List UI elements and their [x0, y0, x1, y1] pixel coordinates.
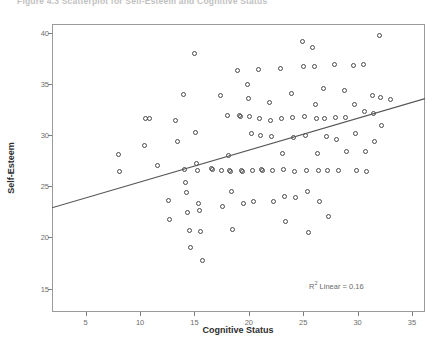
- scatter-point: [258, 133, 263, 138]
- scatter-point: [316, 168, 321, 173]
- x-tick-mark: [358, 312, 359, 316]
- scatter-point: [362, 109, 367, 114]
- scatter-point: [372, 139, 377, 144]
- x-tick-label: 30: [353, 318, 361, 327]
- scatter-point: [343, 115, 348, 120]
- scatter-point: [312, 64, 317, 69]
- scatter-point: [363, 149, 368, 154]
- x-tick-label: 5: [84, 318, 88, 327]
- scatter-point: [184, 190, 189, 195]
- scatter-point: [322, 116, 327, 121]
- scatter-point: [193, 130, 198, 135]
- plot-area: 152025303540 5101520253035: [52, 24, 425, 312]
- scatter-point: [321, 86, 326, 91]
- scatter-point: [379, 123, 384, 128]
- scatter-point: [181, 92, 186, 97]
- scatter-point: [305, 189, 310, 194]
- y-axis-title: Self-Esteem: [6, 142, 16, 194]
- scatter-point: [210, 167, 215, 172]
- scatter-point: [260, 168, 265, 173]
- scatter-point: [226, 153, 231, 158]
- scatter-point: [378, 95, 383, 100]
- scatter-point: [304, 168, 309, 173]
- r-squared-annotation: R2 Linear = 0.16: [309, 280, 364, 291]
- scatter-point: [314, 116, 319, 121]
- scatter-point: [303, 133, 308, 138]
- scatter-point: [290, 115, 295, 120]
- scatter-point: [315, 151, 320, 156]
- scatter-point: [200, 258, 205, 263]
- scatter-point: [245, 82, 250, 87]
- figure-caption: Figure 4.3 Scatterplot for Self-Esteem a…: [17, 0, 267, 6]
- scatter-point: [306, 230, 311, 235]
- scatter-point: [229, 189, 234, 194]
- scatter-point: [325, 168, 330, 173]
- scatter-point: [283, 219, 288, 224]
- scatter-point: [300, 39, 305, 44]
- scatter-point: [334, 137, 339, 142]
- x-tick-mark: [194, 312, 195, 316]
- scatter-point: [238, 114, 243, 119]
- scatter-point: [246, 96, 251, 101]
- x-tick-mark: [86, 312, 87, 316]
- scatter-point: [196, 201, 201, 206]
- scatter-point: [324, 134, 329, 139]
- x-tick-label: 15: [190, 318, 198, 327]
- scatter-point: [268, 118, 273, 123]
- scatter-point: [278, 66, 283, 71]
- scatter-point: [361, 62, 366, 67]
- scatter-point: [147, 116, 152, 121]
- x-tick-label: 10: [136, 318, 144, 327]
- y-tick-label: 40: [41, 29, 49, 38]
- scatter-point: [353, 131, 358, 136]
- scatter-point: [218, 93, 223, 98]
- scatter-point: [388, 97, 393, 102]
- scatter-point: [289, 91, 294, 96]
- scatter-point: [269, 134, 274, 139]
- scatter-point: [292, 169, 297, 174]
- scatter-point: [228, 169, 233, 174]
- scatter-point: [326, 214, 331, 219]
- scatter-point: [198, 229, 203, 234]
- scatter-point: [257, 116, 262, 121]
- scatter-point: [342, 88, 347, 93]
- scatter-point: [333, 115, 338, 120]
- scatter-point: [249, 131, 254, 136]
- scatter-point: [195, 168, 200, 173]
- r2-value-text: Linear = 0.16: [317, 282, 363, 291]
- scatter-point: [155, 163, 160, 168]
- scatter-point: [116, 152, 121, 157]
- scatter-point: [183, 180, 188, 185]
- scatter-point: [256, 67, 261, 72]
- scatter-point: [364, 169, 369, 174]
- scatter-point: [187, 228, 192, 233]
- x-tick-mark: [249, 312, 250, 316]
- scatter-point: [194, 161, 199, 166]
- scatter-point: [313, 102, 318, 107]
- scatter-point: [192, 51, 197, 56]
- scatter-point: [352, 102, 357, 107]
- scatter-point: [247, 114, 252, 119]
- scatter-point: [220, 204, 225, 209]
- scatter-point: [301, 64, 306, 69]
- scatter-point: [173, 118, 178, 123]
- x-tick-label: 35: [408, 318, 416, 327]
- scatter-point: [175, 139, 180, 144]
- scatter-point: [332, 62, 337, 67]
- scatter-point: [370, 93, 375, 98]
- scatter-point: [371, 111, 376, 116]
- scatter-point: [267, 100, 272, 105]
- scatter-point: [188, 245, 193, 250]
- x-tick-mark: [303, 312, 304, 316]
- scatter-point: [142, 143, 147, 148]
- x-tick-mark: [412, 312, 413, 316]
- y-tick-label: 15: [41, 284, 49, 293]
- scatter-point: [235, 68, 240, 73]
- scatter-point: [166, 198, 171, 203]
- y-tick-label: 25: [41, 182, 49, 191]
- scatter-point: [230, 227, 235, 232]
- scatter-point: [167, 217, 172, 222]
- x-axis-title: Cognitive Status: [202, 325, 273, 335]
- scatter-point: [317, 199, 322, 204]
- scatter-point: [282, 194, 287, 199]
